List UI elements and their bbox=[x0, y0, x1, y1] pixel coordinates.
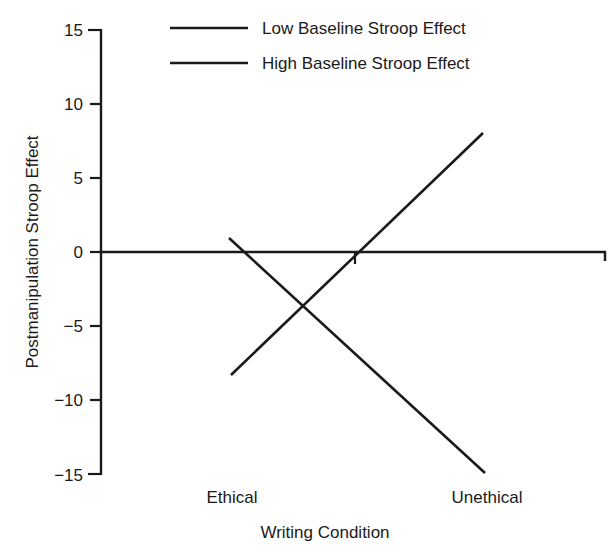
legend-label-low-baseline: Low Baseline Stroop Effect bbox=[262, 19, 466, 38]
chart-figure: 15 10 5 0 −5 −10 −15 Low Baseline Stroop… bbox=[0, 0, 616, 553]
line-chart-canvas: 15 10 5 0 −5 −10 −15 Low Baseline Stroop… bbox=[0, 0, 616, 553]
y-tick-label-5: 5 bbox=[74, 169, 83, 188]
y-tick-label-10: 10 bbox=[64, 95, 83, 114]
x-category-label-unethical: Unethical bbox=[452, 488, 523, 507]
y-tick-label-minus-15: −15 bbox=[54, 466, 83, 485]
y-axis-title: Postmanipulation Stroop Effect bbox=[23, 135, 42, 368]
legend-label-high-baseline: High Baseline Stroop Effect bbox=[262, 54, 470, 73]
y-tick-label-minus-5: −5 bbox=[64, 317, 83, 336]
series-line-high-baseline bbox=[229, 238, 485, 473]
x-axis-title: Writing Condition bbox=[260, 523, 389, 542]
y-tick-label-minus-10: −10 bbox=[54, 391, 83, 410]
y-tick-label-0: 0 bbox=[74, 243, 83, 262]
y-tick-label-15: 15 bbox=[64, 21, 83, 40]
series-line-low-baseline bbox=[231, 133, 483, 375]
x-category-label-ethical: Ethical bbox=[206, 488, 257, 507]
